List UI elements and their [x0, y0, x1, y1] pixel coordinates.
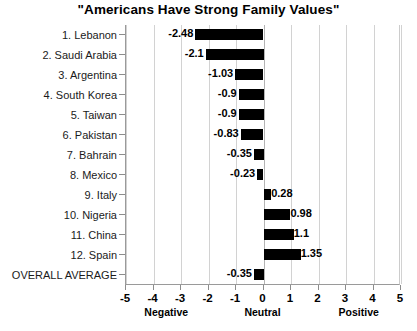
- bar-value-label: 0.98: [290, 206, 311, 221]
- category-label: 5. Taiwan: [0, 108, 117, 122]
- bar: [264, 209, 291, 220]
- category-label: 12. Spain: [0, 248, 117, 262]
- category-label: 10. Nigeria: [0, 208, 117, 222]
- bar-row: -2.1: [126, 45, 399, 65]
- bar: [235, 69, 263, 80]
- x-tick-label: 0: [251, 291, 275, 305]
- bar: [241, 129, 264, 140]
- bar-value-label: 1.35: [301, 246, 322, 261]
- x-tick-mark: [263, 285, 264, 290]
- category-row: 3. Argentina: [0, 65, 125, 85]
- x-tick-mark: [180, 285, 181, 290]
- bar-value-label: -2.1: [185, 46, 204, 61]
- x-tick-mark: [153, 285, 154, 290]
- chart-title: "Americans Have Strong Family Values": [0, 2, 417, 17]
- bar-value-label: -0.35: [227, 146, 252, 161]
- x-tick-label: 3: [333, 291, 357, 305]
- bar-row: -0.83: [126, 125, 399, 145]
- x-tick-label: 1: [278, 291, 302, 305]
- bar: [264, 189, 272, 200]
- category-axis: 1. Lebanon2. Saudi Arabia3. Argentina4. …: [0, 25, 125, 285]
- x-tick-label: -4: [141, 291, 165, 305]
- bar-row: -0.35: [126, 265, 399, 285]
- bar-row: -2.48: [126, 25, 399, 45]
- bar-row: -0.35: [126, 145, 399, 165]
- category-label: 2. Saudi Arabia: [0, 48, 117, 62]
- x-tick-mark: [345, 285, 346, 290]
- chart-container: "Americans Have Strong Family Values" 1.…: [0, 0, 417, 331]
- bar-row: 0.28: [126, 185, 399, 205]
- category-row: 12. Spain: [0, 245, 125, 265]
- x-tick-mark: [208, 285, 209, 290]
- bar-row: -0.9: [126, 105, 399, 125]
- bar: [239, 89, 264, 100]
- x-tick-label: 2: [306, 291, 330, 305]
- x-group-label: Positive: [314, 306, 404, 319]
- category-label: 11. China: [0, 228, 117, 242]
- category-label: 1. Lebanon: [0, 28, 117, 42]
- bar: [254, 149, 264, 160]
- category-label: 7. Bahrain: [0, 148, 117, 162]
- bar: [257, 169, 263, 180]
- category-row: 11. China: [0, 225, 125, 245]
- category-row: 5. Taiwan: [0, 105, 125, 125]
- category-label: 9. Italy: [0, 188, 117, 202]
- x-tick-label: -2: [196, 291, 220, 305]
- bar-row: -0.9: [126, 85, 399, 105]
- bar-value-label: 1.1: [294, 226, 309, 241]
- x-tick-label: -1: [223, 291, 247, 305]
- bar: [254, 269, 264, 280]
- bar-value-label: -0.35: [227, 266, 252, 281]
- gridline: [401, 25, 402, 284]
- category-row: 8. Mexico: [0, 165, 125, 185]
- bar-value-label: -0.9: [218, 86, 237, 101]
- bar: [206, 49, 264, 60]
- bar-row: -1.03: [126, 65, 399, 85]
- bar-value-label: -0.9: [218, 106, 237, 121]
- x-tick-mark: [290, 285, 291, 290]
- category-label: OVERALL AVERAGE: [0, 268, 117, 282]
- x-tick-label: 5: [388, 291, 412, 305]
- category-row: 6. Pakistan: [0, 125, 125, 145]
- x-tick-label: -5: [113, 291, 137, 305]
- category-label: 3. Argentina: [0, 68, 117, 82]
- category-row: 9. Italy: [0, 185, 125, 205]
- bar: [239, 109, 264, 120]
- x-tick-mark: [400, 285, 401, 290]
- x-tick-label: 4: [361, 291, 385, 305]
- category-row: OVERALL AVERAGE: [0, 265, 125, 285]
- bar-value-label: -1.03: [208, 66, 233, 81]
- bar-value-label: -2.48: [168, 26, 193, 41]
- category-label: 6. Pakistan: [0, 128, 117, 142]
- bar: [264, 249, 301, 260]
- bar-row: -0.23: [126, 165, 399, 185]
- plot-area: -2.48-2.1-1.03-0.9-0.9-0.83-0.35-0.230.2…: [125, 25, 400, 285]
- category-label: 4. South Korea: [0, 88, 117, 102]
- bar-row: 1.1: [126, 225, 399, 245]
- bar: [264, 229, 294, 240]
- category-row: 4. South Korea: [0, 85, 125, 105]
- bar-value-label: -0.83: [214, 126, 239, 141]
- category-row: 2. Saudi Arabia: [0, 45, 125, 65]
- bar-value-label: 0.28: [271, 186, 292, 201]
- x-tick-mark: [125, 285, 126, 290]
- bar: [195, 29, 263, 40]
- x-axis: -5-4-3-2-1012345NegativeNeutralPositive: [125, 285, 400, 331]
- category-row: 7. Bahrain: [0, 145, 125, 165]
- x-group-label: Negative: [121, 306, 211, 319]
- bar-value-label: -0.23: [230, 166, 255, 181]
- bar-row: 0.98: [126, 205, 399, 225]
- x-tick-mark: [235, 285, 236, 290]
- category-label: 8. Mexico: [0, 168, 117, 182]
- x-tick-mark: [318, 285, 319, 290]
- category-row: 10. Nigeria: [0, 205, 125, 225]
- x-tick-mark: [373, 285, 374, 290]
- bar-row: 1.35: [126, 245, 399, 265]
- x-group-label: Neutral: [218, 306, 308, 319]
- category-row: 1. Lebanon: [0, 25, 125, 45]
- x-tick-label: -3: [168, 291, 192, 305]
